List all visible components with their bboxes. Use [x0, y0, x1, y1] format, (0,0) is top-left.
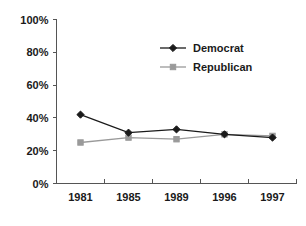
x-tick-label: 1997 — [260, 191, 284, 203]
y-axis-ticks: 0%20%40%60%80%100% — [20, 14, 56, 190]
x-tick-label: 1989 — [164, 191, 188, 203]
y-tick-label: 40% — [26, 112, 48, 124]
x-tick-label: 1981 — [68, 191, 92, 203]
data-point-marker — [174, 137, 179, 142]
x-axis-ticks: 19811985198919961997 — [57, 179, 297, 203]
legend-label: Democrat — [193, 42, 244, 54]
y-tick-label: 80% — [26, 46, 48, 58]
line-chart: 0%20%40%60%80%100%19811985198919961997De… — [0, 0, 306, 226]
legend-marker — [170, 64, 175, 69]
legend: DemocratRepublican — [160, 42, 253, 73]
data-point-marker — [77, 111, 84, 118]
legend-item-democrat: Democrat — [160, 42, 244, 54]
x-tick-label: 1985 — [116, 191, 140, 203]
data-point-marker — [78, 140, 83, 145]
legend-item-republican: Republican — [160, 61, 253, 73]
y-tick-label: 100% — [20, 14, 48, 26]
chart-canvas: 0%20%40%60%80%100%19811985198919961997De… — [0, 0, 306, 226]
y-tick-label: 0% — [33, 178, 49, 190]
data-point-marker — [173, 126, 180, 133]
x-tick-label: 1996 — [212, 191, 236, 203]
legend-label: Republican — [193, 61, 253, 73]
axes — [57, 20, 297, 184]
legend-marker — [169, 44, 176, 51]
y-tick-label: 60% — [26, 79, 48, 91]
y-tick-label: 20% — [26, 145, 48, 157]
